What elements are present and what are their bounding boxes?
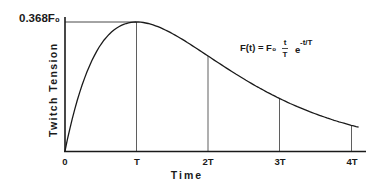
twitch-curve bbox=[65, 22, 359, 151]
equation-frac-num: t bbox=[284, 38, 287, 47]
x-axis-label: Time bbox=[171, 169, 203, 181]
x-tick-T: T bbox=[134, 156, 140, 167]
x-tick-2T: 2T bbox=[202, 156, 213, 167]
equation-exp-power: -t/T bbox=[300, 38, 313, 47]
twitch-tension-chart: 0.368F₀ Twitch Tension 0 T 2T 3T 4T Time… bbox=[0, 0, 378, 186]
y-axis-label: Twitch Tension bbox=[47, 43, 59, 137]
x-tick-3T: 3T bbox=[274, 156, 285, 167]
x-tick-4T: 4T bbox=[346, 156, 357, 167]
y-tick-peak-label: 0.368F₀ bbox=[19, 12, 60, 24]
equation-lhs: F(t) = F₀ bbox=[240, 42, 276, 53]
equation: F(t) = F₀ t T e -t/T bbox=[240, 38, 313, 59]
x-tick-0: 0 bbox=[62, 156, 67, 167]
equation-frac-den: T bbox=[283, 50, 288, 59]
